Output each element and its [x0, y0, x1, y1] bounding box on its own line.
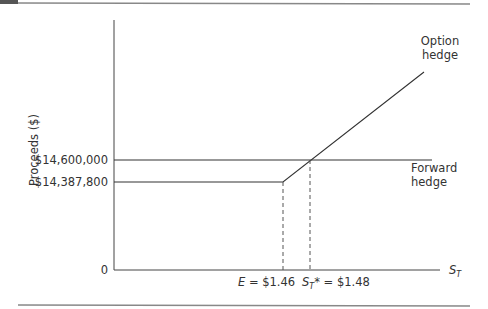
forward-hedge-label-1: Forward	[411, 161, 457, 175]
ytick-low: $14,387,800	[35, 175, 108, 189]
strike-label: E = $1.46	[238, 275, 295, 289]
option-hedge-label-1: Option	[421, 34, 459, 48]
corner-block	[0, 0, 18, 4]
bottom-rule	[18, 305, 470, 306]
option-hedge-label-2: hedge	[422, 48, 458, 62]
hedge-payoff-chart: $14,600,000 $14,387,800 0 Proceeds ($) O…	[0, 0, 488, 309]
forward-hedge-label-2: hedge	[411, 175, 447, 189]
top-rule	[18, 3, 470, 4]
ytick-zero: 0	[101, 263, 108, 277]
ytick-high: $14,600,000	[35, 153, 108, 167]
breakeven-label: ST* = $1.48	[302, 275, 370, 291]
y-axis-label: Proceeds ($)	[27, 114, 41, 186]
option-hedge-line	[114, 72, 424, 182]
x-axis-label: ST	[449, 263, 462, 279]
